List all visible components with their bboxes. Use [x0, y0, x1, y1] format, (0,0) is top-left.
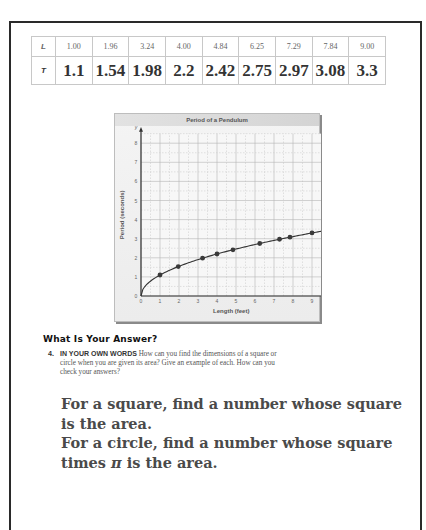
- plot-background: [141, 134, 321, 296]
- data-point: [231, 247, 236, 252]
- data-point: [200, 256, 205, 261]
- answer-line-2: is the area.: [61, 414, 381, 434]
- handwritten-answer: For a square, find a number whose square…: [61, 394, 381, 472]
- table-cell: 1.1: [56, 57, 93, 85]
- y-tick-label: 7: [135, 159, 138, 165]
- y-tick-label: 6: [135, 178, 138, 184]
- table-cell: 1.00: [56, 37, 93, 57]
- y-axis-arrow-icon: [139, 127, 143, 132]
- answer-word-times: times: [61, 454, 106, 471]
- table-cell: 3.24: [129, 37, 166, 57]
- table-cell: 7.84: [312, 37, 349, 57]
- table-cell: 2.42: [202, 57, 239, 85]
- x-tick-label: 5: [235, 298, 238, 304]
- pi-symbol: π: [111, 454, 122, 471]
- data-point: [176, 264, 181, 269]
- x-tick-label: 7: [273, 298, 276, 304]
- table-cell: 9.00: [349, 37, 386, 57]
- x-tick-label: 6: [254, 298, 257, 304]
- table-cell: 3.3: [349, 57, 386, 85]
- data-point: [257, 241, 262, 246]
- table-row-period: T 1.1 1.54 1.98 2.2 2.42 2.75 2.97 3.08 …: [32, 57, 386, 85]
- question-text-line3: check your answers?: [60, 368, 120, 376]
- x-axis-title: Length (feet): [213, 308, 249, 314]
- answer-line-3: For a circle, find a number whose square: [61, 433, 381, 453]
- table-cell: 1.54: [92, 57, 129, 85]
- table-cell: 2.97: [275, 57, 312, 85]
- question-text-line2: circle when you are given its area? Give…: [60, 359, 275, 367]
- x-tick-label: 1: [159, 298, 162, 304]
- y-axis-end-label: y: [134, 124, 138, 130]
- x-tick-label: 0: [140, 298, 143, 304]
- y-tick-label: 1: [135, 274, 138, 280]
- table-cell: 2.75: [239, 57, 276, 85]
- x-tick-label: 2: [178, 298, 181, 304]
- x-tick-label: 4: [216, 298, 219, 304]
- data-point: [277, 237, 282, 242]
- y-tick-label: 5: [135, 198, 138, 204]
- table-cell: 1.98: [129, 57, 166, 85]
- answer-line-1: For a square, find a number whose square: [61, 394, 381, 414]
- pendulum-data-table: L 1.00 1.96 3.24 4.00 4.84 6.25 7.29 7.8…: [31, 36, 386, 85]
- table-cell: 3.08: [312, 57, 349, 85]
- y-tick-label: 8: [135, 140, 138, 146]
- question-label: IN YOUR OWN WORDS: [60, 350, 137, 357]
- y-tick-label: 3: [135, 236, 138, 242]
- table-cell: 4.84: [202, 37, 239, 57]
- question-number: 4.: [48, 349, 54, 358]
- table-cell: 2.2: [165, 57, 202, 85]
- question-4: 4. IN YOUR OWN WORDS How can you find th…: [48, 349, 358, 378]
- table-cell: 1.96: [92, 37, 129, 57]
- row-header-t: T: [32, 57, 56, 85]
- question-body: IN YOUR OWN WORDS How can you find the d…: [48, 349, 358, 378]
- table-row-length: L 1.00 1.96 3.24 4.00 4.84 6.25 7.29 7.8…: [32, 37, 386, 57]
- table-cell: 4.00: [165, 37, 202, 57]
- x-tick-label: 8: [292, 298, 295, 304]
- table-cell: 6.25: [239, 37, 276, 57]
- y-tick-label: 2: [135, 255, 138, 261]
- data-point: [310, 231, 315, 236]
- question-text-line1: How can you find the dimensions of a squ…: [137, 350, 277, 358]
- section-heading: What Is Your Answer?: [43, 334, 157, 344]
- pendulum-chart: Period of a Pendulum 0123456789012345678…: [114, 113, 320, 322]
- chart-plot-area: 0123456789012345678xyLength (feet)Period…: [115, 114, 321, 323]
- data-point: [158, 273, 163, 278]
- y-tick-label: 4: [135, 217, 138, 223]
- y-axis-title: Period (seconds): [119, 190, 125, 239]
- answer-word-rest: is the area.: [127, 454, 218, 471]
- y-tick-label: 0: [135, 293, 138, 299]
- table-cell: 7.29: [275, 37, 312, 57]
- data-point: [215, 252, 220, 257]
- x-tick-label: 9: [311, 298, 314, 304]
- data-point: [288, 235, 293, 240]
- answer-line-4: times π is the area.: [61, 453, 381, 473]
- x-tick-label: 3: [197, 298, 200, 304]
- row-header-l: L: [32, 37, 56, 57]
